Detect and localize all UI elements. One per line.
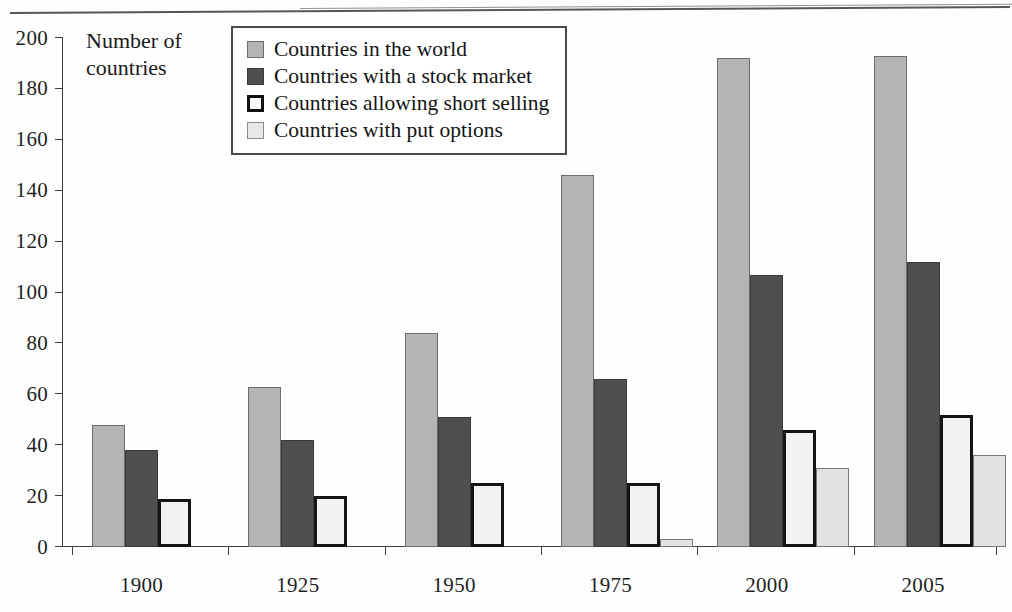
x-axis-tick-label: 1925 — [276, 575, 319, 596]
bar — [874, 56, 907, 547]
bar — [627, 483, 660, 547]
bar — [248, 387, 281, 547]
bar — [438, 417, 471, 547]
bar — [125, 450, 158, 547]
y-axis-tick: 160 — [55, 139, 63, 140]
x-axis-tick-label: 1975 — [589, 575, 632, 596]
y-axis-line — [62, 38, 63, 547]
y-axis-tick-label: 160 — [16, 129, 48, 150]
bar — [717, 58, 750, 547]
bar — [907, 262, 940, 547]
x-axis-tick — [228, 546, 229, 555]
bar — [405, 333, 438, 547]
x-axis-tick — [541, 546, 542, 555]
y-axis-tick: 120 — [55, 241, 63, 242]
x-axis-tick — [697, 546, 698, 555]
bar — [92, 425, 125, 547]
plot-area: 0204060801001201401601802001900192519501… — [62, 38, 1000, 547]
bar — [281, 440, 314, 547]
y-axis-tick-label: 0 — [37, 536, 48, 557]
bar — [750, 275, 783, 547]
y-axis-tick-label: 120 — [16, 231, 48, 252]
x-axis-tick-label: 2005 — [902, 575, 945, 596]
bar — [158, 499, 191, 547]
y-axis-tick-label: 200 — [16, 27, 48, 48]
x-axis-tick — [996, 546, 997, 555]
y-axis-tick-label: 60 — [26, 383, 48, 404]
y-axis-tick: 80 — [55, 342, 63, 343]
x-axis-line — [62, 546, 1000, 547]
bar — [471, 483, 504, 547]
y-axis-tick: 20 — [55, 495, 63, 496]
x-axis-tick-label: 1900 — [120, 575, 163, 596]
x-axis-tick-label: 2000 — [745, 575, 788, 596]
bar — [973, 455, 1006, 547]
x-axis-tick — [72, 546, 73, 555]
y-axis-tick-label: 40 — [26, 434, 48, 455]
y-axis-tick: 40 — [55, 444, 63, 445]
bar — [783, 430, 816, 547]
y-axis-tick: 60 — [55, 393, 63, 394]
bar — [561, 175, 594, 547]
y-axis-tick: 0 — [55, 546, 63, 547]
x-axis-tick — [854, 546, 855, 555]
bar — [816, 468, 849, 547]
bar — [660, 539, 693, 547]
x-axis-tick-label: 1950 — [433, 575, 476, 596]
y-axis-tick: 180 — [55, 88, 63, 89]
y-axis-tick-label: 80 — [26, 332, 48, 353]
y-axis-tick: 200 — [55, 37, 63, 38]
y-axis-tick-label: 180 — [16, 78, 48, 99]
y-axis-tick: 140 — [55, 190, 63, 191]
bar — [940, 415, 973, 547]
y-axis-tick-label: 140 — [16, 180, 48, 201]
y-axis-tick-label: 20 — [26, 485, 48, 506]
bar — [594, 379, 627, 547]
bar-chart-figure: Number of countries Countries in the wor… — [0, 0, 1012, 612]
y-axis-tick: 100 — [55, 292, 63, 293]
y-axis-tick-label: 100 — [16, 282, 48, 303]
x-axis-tick — [385, 546, 386, 555]
bar — [314, 496, 347, 547]
